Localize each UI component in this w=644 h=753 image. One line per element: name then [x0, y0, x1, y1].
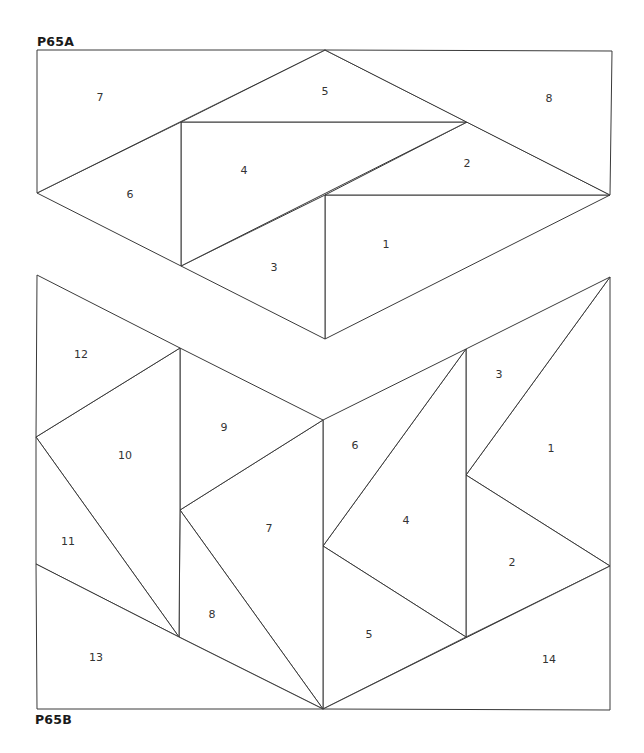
piece-number-a-7: 7 [97, 91, 104, 104]
piece-number-a-5: 5 [322, 85, 329, 98]
paper-piecing-diagram: 12345678 1234567891011121314 [0, 0, 644, 753]
piece-number-b-6: 6 [352, 439, 359, 452]
piece-number-b-3: 3 [496, 368, 503, 381]
piece-number-a-8: 8 [546, 92, 553, 105]
piece-number-b-4: 4 [403, 514, 410, 527]
piece-number-b-5: 5 [366, 628, 373, 641]
piece-number-b-12: 12 [74, 348, 88, 361]
piece-number-b-14: 14 [542, 653, 556, 666]
piece-number-b-7: 7 [266, 522, 273, 535]
section-label-p65b: P65B [35, 714, 72, 727]
piece-number-b-1: 1 [548, 442, 555, 455]
piece-number-b-11: 11 [61, 535, 75, 548]
section-p65a: 12345678 [37, 50, 612, 339]
piece-number-a-6: 6 [127, 188, 134, 201]
piece-number-a-2: 2 [464, 157, 471, 170]
piece-number-a-1: 1 [383, 238, 390, 251]
piece-number-a-3: 3 [271, 261, 278, 274]
piece-number-b-9: 9 [221, 421, 228, 434]
piece-number-b-8: 8 [209, 608, 216, 621]
piece-number-b-13: 13 [89, 651, 103, 664]
piece-number-b-2: 2 [509, 556, 516, 569]
piece-number-a-4: 4 [241, 164, 248, 177]
section-p65b: 1234567891011121314 [36, 275, 610, 710]
piece-number-b-10: 10 [118, 449, 132, 462]
